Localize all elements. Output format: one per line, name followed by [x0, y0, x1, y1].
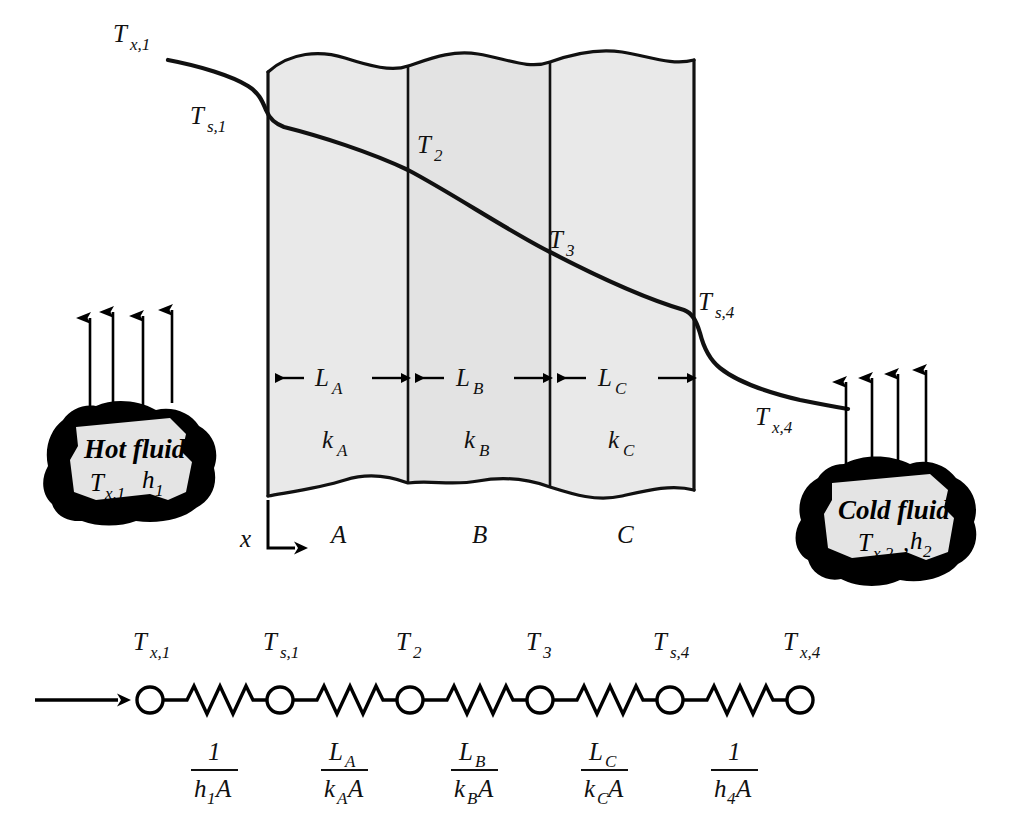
- cold-fluid-arrows: [846, 370, 926, 470]
- label-t-x-1-base: T: [113, 20, 129, 47]
- resistance-label-h4-num: 1: [728, 738, 741, 765]
- circuit-label-t-2: T 2: [396, 628, 422, 662]
- resistance-label-la-ka-den-sub: A: [336, 789, 348, 808]
- circuit-label-t-x-1-sub: x,1: [149, 643, 170, 662]
- dimension-l-a-base: L: [314, 364, 329, 391]
- resistance-label-la-ka-num-sub: A: [344, 752, 356, 771]
- wall-layer-c: [550, 51, 694, 498]
- dimension-l-c-sub: C: [615, 379, 627, 398]
- circuit-label-t-s-1-sub: s,1: [280, 643, 299, 662]
- cold-fluid-title: Cold fluid: [838, 495, 950, 525]
- resistance-label-lb-kb-num-base: L: [458, 738, 473, 765]
- dimension-l-c-base: L: [597, 364, 612, 391]
- circuit-node-labels: T x,1 T s,1 T 2 T 3 T s,4 T x,4: [133, 628, 821, 662]
- circuit-label-t-s-4: T s,4: [653, 628, 690, 662]
- circuit-label-t-x-4: T x,4: [783, 628, 821, 662]
- circuit-label-t-x-1-base: T: [133, 628, 149, 655]
- hot-fluid-coeff-base: h: [142, 466, 155, 493]
- resistance-label-la-ka: L A k A A: [321, 738, 368, 808]
- label-t-2-sub: 2: [434, 146, 443, 165]
- resistance-label-la-ka-den-tail: A: [346, 775, 364, 802]
- circuit-label-t-s-4-sub: s,4: [670, 643, 690, 662]
- label-t-2-base: T: [417, 131, 433, 158]
- label-t-x-4-sub: x,4: [771, 418, 793, 437]
- x-axis-label: x: [239, 525, 251, 552]
- cold-fluid-temp-base: T: [858, 529, 874, 556]
- hot-fluid-title: Hot fluid: [83, 434, 186, 464]
- wall-layer-b: [408, 53, 550, 487]
- circuit-label-t-x-4-base: T: [783, 628, 799, 655]
- resistance-label-h1: 1 h 1 A: [191, 738, 238, 808]
- thermal-resistance-circuit: T x,1 T s,1 T 2 T 3 T s,4 T x,4: [35, 628, 821, 808]
- label-t-s-1-sub: s,1: [207, 117, 226, 136]
- hot-fluid-coeff-sub: 1: [155, 481, 164, 500]
- label-t-x-4-base: T: [755, 403, 771, 430]
- circuit-label-t-3-sub: 3: [542, 643, 552, 662]
- label-t-x-4: T x,4: [755, 403, 793, 437]
- dimension-l-b-sub: B: [473, 379, 484, 398]
- resistor-h4: [683, 686, 787, 714]
- circuit-label-t-s-1: T s,1: [263, 628, 299, 662]
- label-t-s-4: T s,4: [698, 288, 735, 322]
- circuit-node-t-s-4: [657, 687, 683, 713]
- label-t-s-1: T s,1: [190, 102, 226, 136]
- label-k-c-sub: C: [623, 441, 635, 460]
- hot-fluid-temp-sub: x,1: [104, 484, 125, 503]
- resistance-label-h1-den-sub: 1: [207, 789, 216, 808]
- circuit-label-t-3: T 3: [526, 628, 552, 662]
- label-k-b-sub: B: [479, 441, 490, 460]
- cold-fluid-coeff-sub: 2: [923, 542, 932, 561]
- resistance-label-lc-kc-num-sub: C: [605, 752, 617, 771]
- label-t-3-base: T: [549, 226, 565, 253]
- resistance-label-lc-kc-num-base: L: [588, 738, 603, 765]
- circuit-node-t-x-4: [787, 687, 813, 713]
- label-k-b-base: k: [464, 426, 476, 453]
- resistor-lb-kb: [423, 686, 527, 714]
- label-t-s-4-sub: s,4: [715, 303, 735, 322]
- hot-fluid-arrows: [90, 310, 172, 410]
- region-labels: A B C: [329, 521, 634, 548]
- resistance-label-lb-kb-den-base: k: [454, 775, 466, 802]
- circuit-label-t-x-1: T x,1: [133, 628, 170, 662]
- label-t-s-4-base: T: [698, 288, 714, 315]
- resistance-label-h1-den-tail: A: [214, 775, 232, 802]
- hot-fluid-blob: Hot fluid T x,1 h 1: [43, 310, 216, 526]
- region-label-b: B: [472, 521, 487, 548]
- label-k-a-sub: A: [336, 441, 348, 460]
- resistance-label-lb-kb-num-sub: B: [475, 752, 486, 771]
- label-k-c-base: k: [608, 426, 620, 453]
- resistance-label-h4: 1 h 4 A: [711, 738, 758, 808]
- resistance-label-lb-kb-den-tail: A: [476, 775, 494, 802]
- resistance-label-h1-num: 1: [208, 738, 221, 765]
- hot-fluid-temp-base: T: [90, 469, 106, 496]
- circuit-label-t-s-4-base: T: [653, 628, 669, 655]
- wall-layer-a: [268, 54, 408, 496]
- circuit-resistance-labels: 1 h 1 A L A k A A L B k B: [191, 738, 758, 808]
- resistance-label-lc-kc-den-base: k: [584, 775, 596, 802]
- label-t-x-1-sub: x,1: [129, 35, 150, 54]
- circuit-node-t-x-1: [137, 687, 163, 713]
- dimension-l-b-base: L: [455, 364, 470, 391]
- resistance-label-la-ka-den-base: k: [324, 775, 336, 802]
- resistance-label-lb-kb-den-sub: B: [467, 789, 478, 808]
- label-t-3-sub: 3: [565, 241, 575, 260]
- circuit-label-t-2-base: T: [396, 628, 412, 655]
- resistor-h1: [163, 686, 267, 714]
- circuit-label-t-x-4-sub: x,4: [799, 643, 821, 662]
- dimension-l-a-sub: A: [331, 379, 343, 398]
- resistance-label-h4-den-base: h: [714, 775, 727, 802]
- region-label-c: C: [617, 521, 634, 548]
- resistance-label-h4-den-sub: 4: [727, 789, 736, 808]
- resistance-label-h1-den-base: h: [194, 775, 207, 802]
- cold-fluid-separator: ,: [903, 529, 909, 556]
- resistance-label-lc-kc: L C k C A: [581, 738, 628, 808]
- circuit-label-t-s-1-base: T: [263, 628, 279, 655]
- resistance-label-lb-kb: L B k B A: [451, 738, 498, 808]
- circuit-node-t-s-1: [267, 687, 293, 713]
- resistor-la-ka: [293, 686, 397, 714]
- circuit-label-t-3-base: T: [526, 628, 542, 655]
- resistor-lc-kc: [553, 686, 657, 714]
- resistance-label-la-ka-num-base: L: [328, 738, 343, 765]
- label-t-s-1-base: T: [190, 102, 206, 129]
- cold-fluid-coeff-base: h: [910, 527, 923, 554]
